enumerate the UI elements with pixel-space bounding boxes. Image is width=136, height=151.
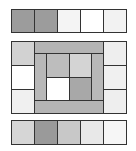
bottom-row-cell-3 <box>57 120 81 145</box>
bottom-row-cell-5 <box>103 120 127 145</box>
middle-cell-inner-top-left <box>46 53 70 78</box>
bottom-row-cell-2 <box>34 120 58 145</box>
middle-cell-inner-top-right <box>69 53 92 78</box>
top-row-cell-1 <box>11 9 35 33</box>
middle-cell-frame-right-strip <box>91 53 104 101</box>
top-row-cell-4 <box>80 9 104 33</box>
middle-cell-inner-bottom-right <box>69 77 92 101</box>
top-row-cell-2 <box>34 9 58 33</box>
middle-cell-frame-bottom-bar <box>34 100 104 114</box>
bottom-row-cell-4 <box>80 120 104 145</box>
middle-cell-inner-bottom-left <box>46 77 70 101</box>
middle-cell-right-middle <box>103 65 127 90</box>
middle-cell-right-top <box>103 41 127 66</box>
bottom-row-cell-1 <box>11 120 35 145</box>
middle-cell-left-middle <box>11 65 35 90</box>
middle-cell-right-bottom <box>103 89 127 114</box>
top-row-cell-5 <box>103 9 127 33</box>
top-row-cell-3 <box>57 9 81 33</box>
middle-cell-left-bottom <box>11 89 35 114</box>
middle-cell-left-top <box>11 41 35 66</box>
